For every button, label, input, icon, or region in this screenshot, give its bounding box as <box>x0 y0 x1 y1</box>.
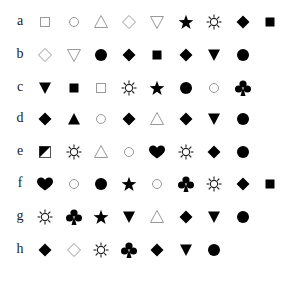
row-label-f: f <box>13 176 27 190</box>
club-filled-icon <box>65 208 83 226</box>
square-filled-icon <box>261 13 279 31</box>
circle-filled-icon <box>234 208 252 226</box>
square-outline-icon <box>36 13 54 31</box>
circle-filled-icon <box>177 79 195 97</box>
row-label-g: g <box>13 209 27 223</box>
circle-outline-icon <box>205 79 223 97</box>
diamond-filled-icon <box>148 241 166 259</box>
circle-outline-icon <box>92 110 110 128</box>
row-label-d: d <box>13 111 27 125</box>
row-label-b: b <box>13 47 27 61</box>
circle-outline-icon <box>65 175 83 193</box>
square-filled-icon <box>148 46 166 64</box>
diamond-filled-icon <box>177 46 195 64</box>
diamond-filled-icon <box>177 110 195 128</box>
triangle-down-filled-icon <box>120 208 138 226</box>
row-label-e: e <box>13 144 27 158</box>
square-filled-icon <box>261 175 279 193</box>
square-half-filled-icon <box>36 143 54 161</box>
circle-outline-icon <box>148 175 166 193</box>
square-filled-icon <box>65 79 83 97</box>
star-filled-icon <box>92 208 110 226</box>
circle-filled-icon <box>234 46 252 64</box>
diamond-outline-icon <box>120 13 138 31</box>
circle-filled-icon <box>92 175 110 193</box>
circle-filled-icon <box>234 143 252 161</box>
diamond-filled-icon <box>36 241 54 259</box>
heart-filled-icon <box>148 143 166 161</box>
triangle-down-filled-icon <box>205 208 223 226</box>
sun-outline-icon <box>177 143 195 161</box>
sun-outline-icon <box>36 208 54 226</box>
circle-outline-icon <box>120 143 138 161</box>
star-filled-icon <box>120 175 138 193</box>
triangle-up-outline-icon <box>92 143 110 161</box>
diamond-filled-icon <box>234 175 252 193</box>
diamond-filled-icon <box>205 143 223 161</box>
row-label-a: a <box>13 14 27 28</box>
star-filled-icon <box>177 13 195 31</box>
triangle-down-outline-icon <box>148 13 166 31</box>
triangle-down-outline-icon <box>65 46 83 64</box>
sun-outline-icon <box>205 175 223 193</box>
circle-outline-icon <box>65 13 83 31</box>
diamond-outline-icon <box>65 241 83 259</box>
square-outline-icon <box>92 79 110 97</box>
star-filled-icon <box>148 79 166 97</box>
triangle-down-filled-icon <box>205 46 223 64</box>
sun-outline-icon <box>120 79 138 97</box>
diamond-filled-icon <box>120 46 138 64</box>
triangle-up-filled-icon <box>65 110 83 128</box>
sun-outline-icon <box>205 13 223 31</box>
circle-filled-icon <box>234 110 252 128</box>
circle-filled-icon <box>92 46 110 64</box>
club-filled-icon <box>177 175 195 193</box>
row-label-h: h <box>13 242 27 256</box>
sun-outline-icon <box>65 143 83 161</box>
triangle-down-filled-icon <box>36 79 54 97</box>
triangle-up-outline-icon <box>92 13 110 31</box>
row-label-c: c <box>13 80 27 94</box>
triangle-up-outline-icon <box>148 208 166 226</box>
diamond-filled-icon <box>120 110 138 128</box>
triangle-up-outline-icon <box>148 110 166 128</box>
symbol-grid: abcdefgh <box>0 0 293 282</box>
diamond-outline-icon <box>36 46 54 64</box>
triangle-down-filled-icon <box>205 110 223 128</box>
sun-outline-icon <box>92 241 110 259</box>
circle-filled-icon <box>205 241 223 259</box>
diamond-filled-icon <box>36 110 54 128</box>
club-filled-icon <box>120 241 138 259</box>
diamond-filled-icon <box>234 13 252 31</box>
diamond-filled-icon <box>177 208 195 226</box>
heart-filled-icon <box>36 175 54 193</box>
triangle-down-filled-icon <box>177 241 195 259</box>
club-filled-icon <box>234 79 252 97</box>
